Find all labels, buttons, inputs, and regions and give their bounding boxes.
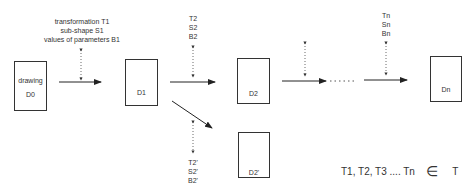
annotation-step2p: T2' S2' B2' (183, 158, 203, 185)
annotation-t2: T2 (183, 14, 203, 23)
annotation-tn: Tn (376, 11, 396, 20)
formula: T1, T2, T3 .... Tn ∈ T (341, 162, 458, 178)
annotation-transformation: transformation T1 (42, 17, 122, 26)
box-d1: D1 (125, 59, 158, 106)
annotation-bn: Bn (376, 29, 396, 38)
box-d0-label: D0 (15, 91, 46, 98)
box-d2-prime: D2' (238, 132, 270, 178)
annotation-parameters: values of parameters B1 (42, 35, 122, 44)
box-dn: Dn (430, 56, 462, 102)
annotation-b2p: B2' (183, 176, 203, 185)
annotation-sn: Sn (376, 20, 396, 29)
box-dn-label: Dn (431, 86, 461, 93)
annotation-step2: T2 S2 B2 (183, 14, 203, 41)
box-d1-label: D1 (126, 89, 157, 96)
box-d2-prime-label: D2' (239, 169, 269, 176)
box-d0-caption: drawing (15, 77, 46, 84)
box-d2: D2 (237, 58, 270, 104)
annotation-b2: B2 (183, 32, 203, 41)
annotation-step1: transformation T1 sub-shape S1 values of… (42, 17, 122, 44)
box-d0: drawing D0 (14, 61, 47, 111)
annotation-s2p: S2' (183, 167, 203, 176)
annotation-t2p: T2' (183, 158, 203, 167)
annotation-s2: S2 (183, 23, 203, 32)
annotation-stepn: Tn Sn Bn (376, 11, 396, 38)
formula-left: T1, T2, T3 .... Tn (341, 166, 415, 177)
box-d2-label: D2 (238, 90, 269, 97)
arrow-d1-d2p (172, 101, 212, 128)
annotation-subshape: sub-shape S1 (42, 26, 122, 35)
element-of-symbol: ∈ (426, 163, 438, 179)
formula-right: T (452, 166, 458, 177)
